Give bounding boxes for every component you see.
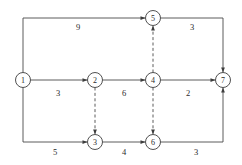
arrowhead-1-to-5 bbox=[141, 16, 146, 20]
arrowhead-4-to-7 bbox=[211, 78, 216, 82]
arrowhead-2-to-3 bbox=[93, 130, 97, 135]
node-label-1: 1 bbox=[21, 76, 25, 85]
edge-weight-1-5: 9 bbox=[76, 22, 80, 32]
node-3[interactable]: 3 bbox=[88, 135, 103, 150]
arrowhead-1-to-2 bbox=[83, 78, 88, 82]
arrowhead-2-to-4 bbox=[141, 78, 146, 82]
node-label-3: 3 bbox=[93, 138, 97, 147]
edge-weight-5-7: 3 bbox=[190, 22, 194, 32]
node-label-5: 5 bbox=[151, 14, 155, 23]
node-label-4: 4 bbox=[151, 76, 155, 85]
arrowhead-5-to-7 bbox=[221, 68, 225, 73]
edge-6-to-7 bbox=[161, 88, 224, 143]
arrowhead-3-to-6 bbox=[141, 140, 146, 144]
node-2[interactable]: 2 bbox=[88, 73, 103, 88]
node-1[interactable]: 1 bbox=[16, 73, 31, 88]
edge-weight-3-6: 4 bbox=[122, 147, 127, 157]
edge-weight-6-7: 3 bbox=[194, 147, 198, 157]
node-6[interactable]: 6 bbox=[146, 135, 161, 150]
node-7[interactable]: 7 bbox=[216, 73, 231, 88]
arrowhead-4-to-5 bbox=[151, 26, 155, 31]
edge-weight-1-3: 5 bbox=[53, 147, 57, 157]
edge-weight-labels-layer: 93362543 bbox=[53, 22, 198, 157]
edge-weight-2-4: 6 bbox=[122, 88, 126, 98]
arrowhead-1-to-3 bbox=[83, 140, 88, 144]
arrowhead-6-to-7 bbox=[221, 88, 225, 93]
edges-layer bbox=[23, 18, 223, 142]
edge-weight-4-7: 2 bbox=[186, 88, 190, 98]
node-label-6: 6 bbox=[151, 138, 155, 147]
node-5[interactable]: 5 bbox=[146, 11, 161, 26]
edge-1-to-5 bbox=[23, 18, 146, 73]
node-label-7: 7 bbox=[221, 76, 225, 85]
edge-weight-1-2: 3 bbox=[56, 88, 60, 98]
node-label-2: 2 bbox=[93, 76, 97, 85]
arrowhead-4-to-6 bbox=[151, 130, 155, 135]
network-diagram-canvas: 1234567 93362543 bbox=[0, 0, 242, 165]
node-4[interactable]: 4 bbox=[146, 73, 161, 88]
network-diagram: 1234567 93362543 bbox=[0, 0, 242, 165]
